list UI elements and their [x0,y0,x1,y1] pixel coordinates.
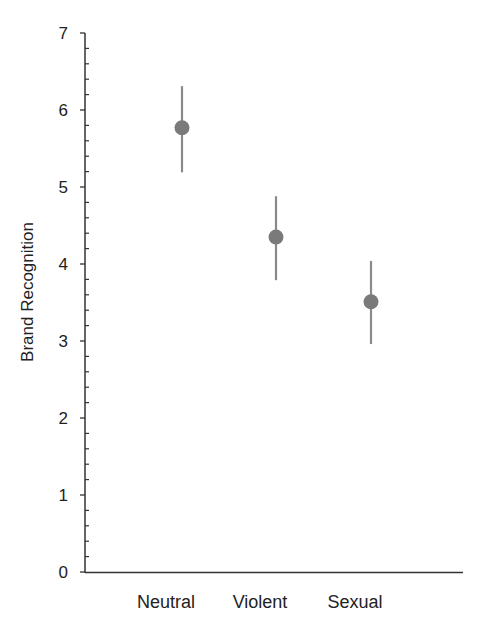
category-labels: NeutralViolentSexual [137,592,383,612]
point-marker [269,230,284,245]
y-tick-label: 2 [59,409,68,428]
category-label: Sexual [327,592,382,612]
axes: 01234567 [59,24,463,582]
data-point-violent [269,196,284,280]
y-tick-labels: 01234567 [59,24,68,582]
data-point-neutral [175,86,190,172]
point-marker [175,120,190,135]
y-tick-label: 7 [59,24,68,43]
chart: 01234567 Brand Recognition NeutralViolen… [0,0,479,629]
y-tick-label: 3 [59,332,68,351]
data-points [175,86,379,344]
y-tick-label: 0 [59,563,68,582]
category-label: Neutral [137,592,195,612]
y-tick-label: 6 [59,101,68,120]
y-tick-label: 1 [59,486,68,505]
point-marker [364,294,379,309]
y-axis-title: Brand Recognition [18,222,37,362]
data-point-sexual [364,261,379,344]
category-label: Violent [233,592,288,612]
y-tick-label: 5 [59,178,68,197]
y-tick-label: 4 [59,255,68,274]
